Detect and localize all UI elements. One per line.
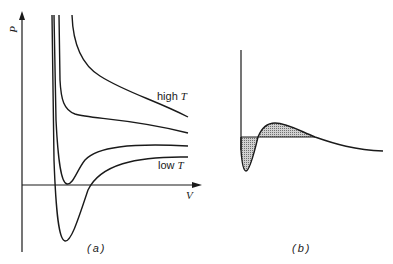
low-t-label: low T bbox=[158, 160, 184, 171]
p-axis-label: P bbox=[8, 26, 19, 33]
isotherm-critical bbox=[59, 15, 188, 133]
v-axis-arrow-icon bbox=[192, 182, 202, 188]
v-axis-label: V bbox=[186, 190, 193, 201]
p-axis-arrow-icon bbox=[19, 11, 25, 20]
low-t-word: low bbox=[158, 159, 175, 171]
panel-a-isotherms bbox=[52, 15, 188, 241]
panel-a-axes bbox=[19, 11, 202, 252]
caption-a: (a) bbox=[87, 243, 106, 254]
caption-b: (b) bbox=[292, 243, 311, 254]
high-t-word: high bbox=[157, 90, 178, 102]
high-t-var: T bbox=[181, 90, 187, 102]
figure-canvas bbox=[0, 0, 393, 264]
low-t-var: T bbox=[178, 159, 184, 171]
high-t-label: high T bbox=[157, 91, 187, 102]
isotherm-b bbox=[241, 123, 383, 171]
panel-b bbox=[241, 50, 383, 171]
